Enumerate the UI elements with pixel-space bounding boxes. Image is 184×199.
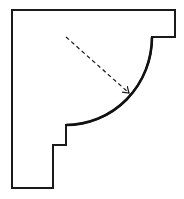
molding-profile-outline xyxy=(12,10,175,188)
cove-molding-diagram xyxy=(0,0,184,199)
radius-arrow xyxy=(66,37,129,93)
cove-curve xyxy=(66,37,152,125)
